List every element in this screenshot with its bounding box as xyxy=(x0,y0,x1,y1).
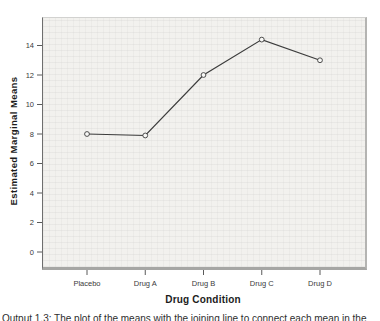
x-tick-label: Drug B xyxy=(192,279,215,288)
data-point-marker xyxy=(259,37,264,42)
caption: Output 1.3: The plot of the means with t… xyxy=(2,313,380,321)
y-tick-label: 10 xyxy=(26,100,34,109)
y-tick-label: 2 xyxy=(30,218,34,227)
plot-area: 02468101214PlaceboDrug ADrug BDrug CDrug… xyxy=(42,17,367,270)
series-line xyxy=(87,40,320,136)
data-point-marker xyxy=(85,132,90,137)
y-tick-label: 14 xyxy=(26,41,34,50)
data-point-marker xyxy=(318,58,323,63)
x-tick-label: Drug D xyxy=(308,279,332,288)
y-tick-label: 12 xyxy=(26,71,34,80)
y-tick-label: 0 xyxy=(30,248,34,257)
x-tick-label: Drug A xyxy=(134,279,157,288)
y-tick-label: 4 xyxy=(30,189,34,198)
data-point-marker xyxy=(201,73,206,78)
y-tick-label: 8 xyxy=(30,130,34,139)
y-axis-title: Estimated Marginal Means xyxy=(8,77,19,206)
x-tick-label: Drug C xyxy=(250,279,274,288)
data-point-marker xyxy=(143,133,148,138)
figure: Estimated Marginal Means 02468101214Plac… xyxy=(0,0,380,321)
x-tick-label: Placebo xyxy=(73,279,100,288)
y-tick-label: 6 xyxy=(30,159,34,168)
line-chart-canvas: 02468101214PlaceboDrug ADrug BDrug CDrug… xyxy=(43,18,365,267)
x-axis-title: Drug Condition xyxy=(165,294,241,305)
